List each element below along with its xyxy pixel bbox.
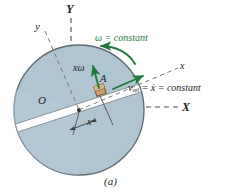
axis-y-rotating-label: y (35, 21, 40, 32)
point-A-label: A (100, 74, 106, 85)
axis-Y-label: Y (66, 3, 74, 16)
axis-X-label: X (182, 101, 190, 113)
figure-caption: (a) (104, 176, 117, 187)
axis-x-rotating-label: x (180, 61, 184, 71)
x-omega-label: xω (73, 63, 85, 73)
figure-container: Y y ω = constant xω A x vrel = ẋ = const… (0, 0, 235, 195)
x-dimension-label: x (87, 117, 91, 127)
origin-label: O (38, 95, 46, 106)
omega-constant-label: ω = constant (95, 33, 148, 43)
v-rel-expression: = ẋ = constant (139, 82, 201, 93)
v-rel-label: vrel = ẋ = constant (128, 83, 201, 93)
